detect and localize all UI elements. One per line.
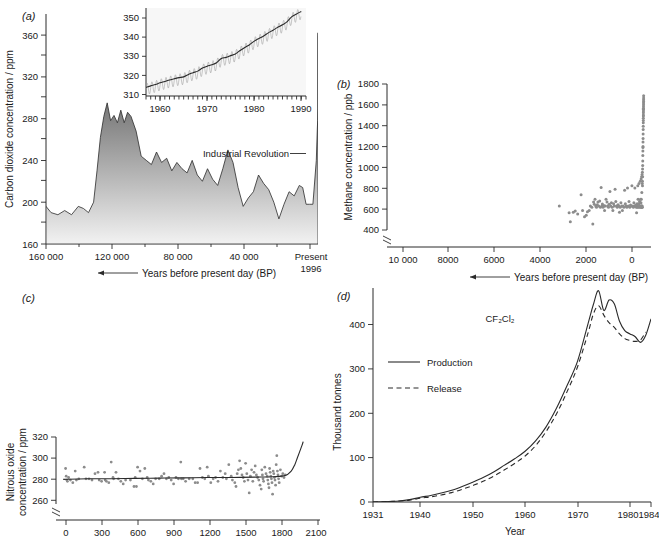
inset-ytick-3: 340 (123, 31, 139, 42)
panel-b-xlabel-group: Years before present day (BP) (470, 272, 648, 283)
legend-label-production: Production (427, 357, 472, 368)
panel-a-xtick-3: 40 000 (229, 251, 258, 262)
panel-d-xtick-6: 1984 (638, 509, 659, 520)
panel-c-xtick-0: 0 (63, 527, 68, 538)
inset-minor-xticks (146, 96, 306, 100)
panel-d-xlabel: Year (505, 526, 526, 537)
panel-b-svg: (b) 400 600 800 1000 1200 1400 1600 1800… (325, 70, 659, 285)
panel-a-ytick-4: 320 (22, 71, 38, 82)
panel-a-xtick-0: 160 000 (29, 251, 63, 262)
panel-d-xtick-3: 1960 (514, 509, 535, 520)
inset-yticks: 310 320 330 340 350 (123, 12, 146, 100)
panel-b-xtick-3: 4000 (529, 254, 550, 265)
panel-c-ytick-2: 300 (32, 452, 48, 463)
panel-b-xlabel: Years before present day (BP) (514, 272, 648, 283)
panel-a-ytick-1: 200 (22, 197, 38, 208)
panel-b-ytick-5: 1400 (358, 120, 379, 131)
panel-c-xtick-4: 1200 (199, 527, 220, 538)
panel-b-axis-break (383, 236, 391, 244)
panel-d-label: (d) (337, 290, 351, 302)
panel-a-ytick-0: 160 (22, 239, 38, 250)
panel-c-xtick-2: 600 (130, 527, 146, 538)
inset-ytick-2: 330 (123, 50, 139, 61)
panel-a-ylabel: Carbon dioxide concentration / ppm (4, 50, 15, 208)
panel-d-xtick-0: 1931 (362, 509, 383, 520)
legend-label-release: Release (427, 383, 462, 394)
panel-d-xtick-2: 1950 (462, 509, 483, 520)
panel-d-ytick-3: 300 (349, 363, 365, 374)
panel-d-ytick-1: 100 (349, 452, 365, 463)
panel-c-xticks: 0 300 600 900 1200 1500 1800 2100 (63, 520, 326, 538)
panel-a-inset: 310 320 330 340 350 1960 1970 1980 1990 (108, 4, 323, 126)
panel-b-ytick-4: 1200 (358, 141, 379, 152)
panel-b: (b) 400 600 800 1000 1200 1400 1600 1800… (325, 70, 659, 285)
panel-b-label: (b) (337, 78, 351, 90)
panel-c-yticks: 260 280 300 320 (32, 431, 56, 505)
inset-xtick-2: 1980 (243, 103, 264, 114)
panel-c-ylabel-line2: concentration / ppm (17, 428, 28, 516)
panel-d: (d) 0 100 200 300 400 Thousand tonnes 19… (325, 282, 659, 542)
inset-xtick-0: 1960 (149, 103, 170, 114)
panel-d-species-label: CF₂Cl₂ (485, 313, 514, 324)
panel-d-ylabel: Thousand tonnes (332, 373, 343, 450)
panel-a-xlabel: Years before present day (BP) (142, 268, 276, 279)
panel-c-xtick-5: 1500 (235, 527, 256, 538)
panel-c-ylabel-line1: Nitrous oxide (5, 442, 16, 501)
panel-a-ytick-3: 280 (22, 113, 38, 124)
panel-b-scatter (558, 94, 645, 225)
panel-c-label: (c) (22, 292, 35, 304)
inset-background (146, 8, 306, 96)
panel-d-svg: (d) 0 100 200 300 400 Thousand tonnes 19… (325, 282, 659, 542)
industrial-revolution-label: Industrial Revolution (203, 148, 289, 159)
panel-a-annotation: Industrial Revolution (203, 148, 306, 159)
panel-c-xtick-7: 2100 (305, 527, 326, 538)
panel-a-xtick-year: 1996 (300, 263, 321, 274)
inset-ytick-1: 320 (123, 70, 139, 81)
inset-xtick-1: 1970 (196, 103, 217, 114)
panel-b-ytick-0: 400 (363, 224, 379, 235)
panel-a-ytick-5: 360 (22, 30, 38, 41)
panel-a-xlabel-group: Years before present day (BP) (98, 268, 276, 279)
panel-c-ytick-3: 320 (32, 431, 48, 442)
panel-a-inset-svg: 310 320 330 340 350 1960 1970 1980 1990 (108, 4, 323, 126)
panel-d-ytick-4: 400 (349, 319, 365, 330)
panel-c-svg: (c) 260 280 300 320 Nitrous oxide concen… (0, 282, 330, 542)
panel-a-label: (a) (22, 10, 36, 22)
panel-c: (c) 260 280 300 320 Nitrous oxide concen… (0, 282, 330, 542)
panel-b-ytick-1: 600 (363, 204, 379, 215)
panel-a-yticks: 160 200 240 280 320 360 (22, 30, 46, 250)
panel-b-xtick-5: 0 (629, 254, 634, 265)
panel-a-xtick-1: 120 000 (95, 251, 129, 262)
panel-b-ytick-3: 1000 (358, 162, 379, 173)
panel-c-xtick-3: 900 (166, 527, 182, 538)
panel-c-ytick-0: 260 (32, 495, 48, 506)
panel-a-xtick-present: Present (295, 251, 328, 262)
panel-c-axis-break (52, 508, 60, 516)
inset-ytick-4: 350 (123, 12, 139, 23)
panel-d-xtick-4: 1970 (567, 509, 588, 520)
panel-c-plot (63, 442, 303, 496)
inset-ytick-0: 310 (123, 89, 139, 100)
inset-xtick-3: 1990 (290, 103, 311, 114)
panel-d-ytick-2: 200 (349, 408, 365, 419)
panel-d-yticks: 0 100 200 300 400 (349, 319, 373, 508)
panel-b-xtick-1: 8000 (437, 254, 458, 265)
panel-b-xticks: 10 000 8000 6000 4000 2000 0 (388, 247, 634, 265)
panel-b-ylabel: Methane concentration / ppb (343, 93, 354, 220)
panel-d-ytick-0: 0 (360, 496, 365, 507)
panel-d-legend: Production Release (388, 357, 472, 394)
panel-b-ytick-2: 800 (363, 183, 379, 194)
panel-d-xticks: 1931 1940 1950 1960 1970 1980 1984 (362, 502, 659, 520)
panel-c-xtick-1: 300 (94, 527, 110, 538)
panel-c-scatter (64, 454, 286, 495)
panel-b-xtick-2: 6000 (483, 254, 504, 265)
panel-a-ytick-2: 240 (22, 155, 38, 166)
panel-b-ytick-6: 1600 (358, 99, 379, 110)
panel-b-xtick-4: 2000 (575, 254, 596, 265)
panel-c-ytick-1: 280 (32, 474, 48, 485)
panel-b-ytick-7: 1800 (358, 78, 379, 89)
panel-c-xtick-6: 1800 (271, 527, 292, 538)
panel-d-xtick-5: 1980 (617, 509, 638, 520)
panel-b-yticks: 400 600 800 1000 1200 1400 1600 1800 (358, 78, 387, 235)
panel-b-xtick-0: 10 000 (388, 254, 417, 265)
